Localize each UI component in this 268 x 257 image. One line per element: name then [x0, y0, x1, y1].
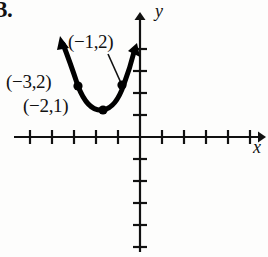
figure-container: 3.	[0, 0, 268, 257]
point-marker-neg2-1	[98, 105, 107, 114]
parabola-curve	[63, 44, 134, 110]
point-label-neg3-2: (−3,2)	[6, 72, 51, 91]
coordinate-graph	[0, 0, 268, 257]
leader-line-point1	[108, 54, 121, 83]
y-axis-label: y	[155, 2, 163, 20]
point-label-neg1-2: (−1,2)	[68, 32, 113, 51]
x-axis-label: x	[253, 138, 261, 156]
point-marker-neg3-2	[73, 81, 82, 90]
y-axis-arrowhead	[135, 12, 146, 20]
point-label-neg2-1: (−2,1)	[23, 96, 68, 115]
point-marker-neg1-2	[117, 80, 126, 89]
